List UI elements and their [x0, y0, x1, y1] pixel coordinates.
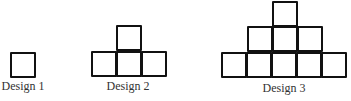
square-cell [297, 26, 323, 52]
square-cell [247, 26, 273, 52]
square-cell [221, 52, 247, 78]
square-cell [10, 52, 36, 78]
square-cell [296, 52, 322, 78]
square-cell [116, 51, 142, 77]
square-cell [321, 52, 347, 78]
design-1-label: Design 1 [2, 80, 45, 92]
square-cell [246, 52, 272, 78]
square-cell [91, 51, 117, 77]
pattern-figure: Design 1 Design 2 Design 3 [0, 0, 351, 101]
square-cell [272, 1, 298, 27]
design-2-label: Design 2 [107, 80, 150, 92]
square-cell [141, 51, 167, 77]
design-3-label: Design 3 [263, 82, 306, 94]
square-cell [272, 26, 298, 52]
square-cell [271, 52, 297, 78]
square-cell [116, 25, 142, 51]
